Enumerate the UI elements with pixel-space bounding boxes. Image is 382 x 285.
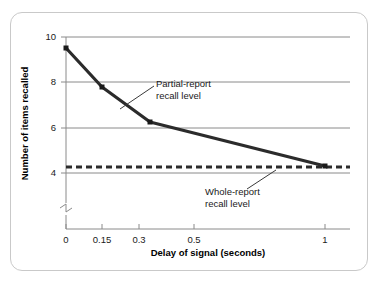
x-tick-label-0-15: 0.15 bbox=[88, 234, 116, 245]
y-tick-label-8: 8 bbox=[34, 76, 56, 87]
whole-report-annotation-line2: recall level bbox=[205, 198, 260, 210]
y-tick-label-10: 10 bbox=[34, 31, 56, 42]
figure-container: 10 8 6 4 0 0.15 0.3 0.5 1 Number of item… bbox=[0, 0, 382, 285]
y-tick-label-4: 4 bbox=[34, 167, 56, 178]
whole-report-annotation-line1: Whole-report bbox=[205, 186, 260, 197]
y-tick-label-6: 6 bbox=[34, 122, 56, 133]
x-tick-label-0: 0 bbox=[52, 234, 80, 245]
x-tick-label-0-3: 0.3 bbox=[125, 234, 153, 245]
partial-report-annotation-line2: recall level bbox=[156, 90, 211, 102]
partial-report-annotation-line1: Partial-report bbox=[156, 78, 211, 89]
x-tick-label-1: 1 bbox=[311, 234, 339, 245]
y-axis-title: Number of items recalled bbox=[19, 64, 30, 184]
partial-report-annotation: Partial-report recall level bbox=[156, 78, 211, 102]
x-axis-title: Delay of signal (seconds) bbox=[66, 247, 350, 258]
partial-report-leader-line bbox=[120, 86, 154, 109]
x-tick-label-0-5: 0.5 bbox=[180, 234, 208, 245]
whole-report-annotation: Whole-report recall level bbox=[205, 186, 260, 210]
plot-area: 10 8 6 4 0 0.15 0.3 0.5 1 Number of item… bbox=[0, 0, 382, 285]
